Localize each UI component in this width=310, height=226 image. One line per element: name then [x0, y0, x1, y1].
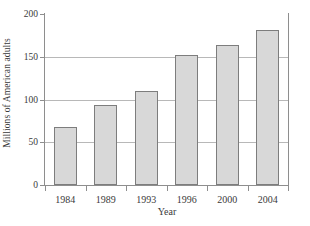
bar-2004 [256, 30, 279, 185]
x-tick-mark [207, 186, 208, 191]
y-tick-label: 200 [24, 9, 38, 19]
y-tick-label: 0 [33, 180, 38, 190]
x-tick-label-1993: 1993 [136, 194, 156, 205]
y-tick-label: 100 [24, 95, 38, 105]
x-tick-label-2004: 2004 [258, 194, 278, 205]
bar-chart: Millions of American adults 050100150200… [0, 0, 310, 226]
gridline [45, 57, 288, 58]
x-tick-mark [126, 186, 127, 191]
y-tick-label: 150 [24, 52, 38, 62]
y-tick-mark [40, 142, 45, 143]
x-tick-mark [167, 186, 168, 191]
gridline [45, 100, 288, 101]
y-tick-mark [40, 57, 45, 58]
x-tick-mark [288, 186, 289, 191]
x-tick-label-1996: 1996 [177, 194, 197, 205]
y-tick-label: 50 [29, 137, 39, 147]
bar-1996 [175, 55, 198, 185]
x-tick-label-2000: 2000 [217, 194, 237, 205]
x-tick-mark [45, 186, 46, 191]
gridline [45, 142, 288, 143]
y-tick-mark [40, 14, 45, 15]
bar-2000 [216, 45, 239, 185]
bar-1993 [135, 91, 158, 185]
x-tick-label-1989: 1989 [96, 194, 116, 205]
plot-right-border [288, 13, 289, 186]
plot-area: 050100150200 [45, 14, 288, 185]
x-tick-label-1984: 1984 [55, 194, 75, 205]
y-tick-mark [40, 100, 45, 101]
x-tick-mark [248, 186, 249, 191]
x-axis-title: Year [45, 206, 289, 217]
bar-1989 [94, 105, 117, 185]
x-tick-mark [86, 186, 87, 191]
bar-1984 [54, 127, 77, 185]
y-axis-title: Millions of American adults [0, 0, 14, 186]
